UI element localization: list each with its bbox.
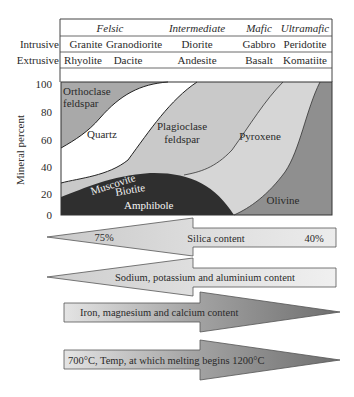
header-ultramafic: Ultramafic — [281, 22, 329, 34]
silica-arrow: 75% Silica content 40% — [47, 218, 336, 256]
y-axis-label: Mineral percent — [14, 115, 26, 185]
row-label-intrusive: Intrusive — [20, 38, 59, 50]
iron-magnesium-label: Iron, magnesium and calcium content — [80, 307, 238, 318]
header-felsic: Felsic — [96, 22, 124, 34]
iron-magnesium-arrow: Iron, magnesium and calcium content — [64, 292, 340, 332]
label-amphibole: Amphibole — [124, 199, 174, 211]
classification-diagram: Felsic Intermediate Mafic Ultramafic Int… — [0, 0, 354, 397]
silica-left-value: 75% — [94, 232, 114, 243]
cell-granodiorite: Granodiorite — [106, 38, 162, 50]
y-tick-60: 60 — [41, 134, 53, 146]
silica-label: Silica content — [187, 233, 245, 244]
label-plagioclase-2: feldspar — [164, 133, 200, 145]
label-orthoclase-1: Orthoclase — [63, 85, 111, 97]
cell-andesite: Andesite — [177, 54, 216, 66]
temperature-label: 700°C, Temp, at which melting begins 120… — [68, 355, 264, 366]
cell-peridotite: Peridotite — [284, 38, 327, 50]
y-tick-40: 40 — [41, 161, 53, 173]
rock-classification-table: Felsic Intermediate Mafic Ultramafic Int… — [17, 19, 332, 82]
header-intermediate: Intermediate — [168, 22, 225, 34]
cell-gabbro: Gabbro — [243, 38, 276, 50]
mineral-chart: Orthoclase feldspar Quartz Plagioclase f… — [61, 82, 332, 215]
header-mafic: Mafic — [245, 22, 272, 34]
cell-dacite: Dacite — [114, 54, 143, 66]
y-tick-80: 80 — [41, 106, 53, 118]
cell-diorite: Diorite — [181, 38, 212, 50]
silica-right-value: 40% — [304, 233, 324, 244]
label-pyroxene: Pyroxene — [239, 130, 281, 142]
y-axis: Mineral percent 100 80 60 40 20 0 — [14, 78, 53, 221]
y-tick-20: 20 — [41, 188, 53, 200]
cell-granite: Granite — [70, 38, 103, 50]
alkali-label: Sodium, potassium and aluminium content — [115, 272, 295, 283]
alkali-arrow: Sodium, potassium and aluminium content — [47, 258, 336, 296]
cell-komatiite: Komatiite — [283, 54, 327, 66]
cell-rhyolite: Rhyolite — [64, 54, 102, 66]
label-plagioclase-1: Plagioclase — [157, 120, 207, 132]
temperature-arrow: 700°C, Temp, at which melting begins 120… — [64, 340, 340, 380]
y-tick-100: 100 — [36, 78, 53, 90]
label-olivine: Olivine — [267, 194, 300, 206]
row-label-extrusive: Extrusive — [17, 54, 59, 66]
label-quartz: Quartz — [87, 128, 117, 140]
label-orthoclase-2: feldspar — [63, 97, 99, 109]
cell-basalt: Basalt — [245, 54, 273, 66]
y-tick-0: 0 — [47, 209, 53, 221]
